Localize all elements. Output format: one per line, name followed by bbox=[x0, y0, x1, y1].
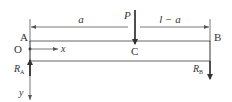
reaction-b: RB bbox=[192, 61, 210, 79]
beam-diagram: a l − a A O C B x P RA y RB bbox=[0, 0, 232, 102]
label-point-b: B bbox=[214, 31, 221, 43]
dimension-lines: a l − a bbox=[30, 13, 210, 42]
x-axis-label: x bbox=[60, 43, 66, 54]
reaction-b-label: RB bbox=[192, 63, 203, 75]
reaction-a-label: RA bbox=[13, 63, 25, 75]
y-axis-label: y bbox=[18, 87, 24, 98]
x-axis: x bbox=[29, 43, 66, 54]
load-label: P bbox=[123, 9, 131, 21]
reaction-a: RA y bbox=[13, 60, 30, 100]
dim-label-a: a bbox=[78, 13, 84, 25]
label-origin: O bbox=[14, 43, 22, 55]
beam bbox=[30, 41, 210, 61]
load-p: P bbox=[123, 9, 135, 44]
label-point-a: A bbox=[20, 31, 28, 43]
dim-label-l-minus-a: l − a bbox=[159, 13, 181, 25]
label-point-c: C bbox=[131, 45, 138, 57]
